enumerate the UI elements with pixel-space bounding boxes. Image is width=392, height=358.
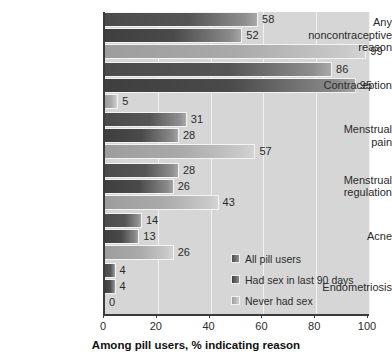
legend-label: Had sex in last 90 days bbox=[245, 274, 354, 286]
bar-value-label: 31 bbox=[187, 112, 203, 127]
bar-chart: 58529986955312857282643141326440 Anynonc… bbox=[0, 0, 392, 358]
category-label-line: Menstrual bbox=[293, 123, 392, 136]
bar[interactable] bbox=[105, 179, 174, 194]
category-label-line: pain bbox=[293, 136, 392, 149]
bar[interactable] bbox=[105, 263, 116, 278]
x-axis-tick-label: 100 bbox=[358, 320, 376, 332]
bar-value-label: 58 bbox=[258, 12, 274, 27]
category-label-line: Menstrual bbox=[293, 174, 392, 187]
x-axis-tick bbox=[209, 314, 210, 318]
category-label-line: Contraception bbox=[293, 79, 392, 92]
bar-row: 86 bbox=[105, 62, 369, 77]
bar-value-label: 4 bbox=[116, 263, 126, 278]
x-axis-tick-label: 40 bbox=[202, 320, 214, 332]
chart-legend: All pill usersHad sex in last 90 daysNev… bbox=[231, 250, 354, 313]
legend-item[interactable]: Had sex in last 90 days bbox=[231, 271, 354, 288]
bar-value-label: 86 bbox=[332, 62, 348, 77]
bar-value-label: 28 bbox=[179, 163, 195, 178]
bar[interactable] bbox=[105, 229, 139, 244]
x-axis-tick-label: 80 bbox=[308, 320, 320, 332]
category-label-line: Any bbox=[293, 16, 392, 29]
bar[interactable] bbox=[105, 62, 332, 77]
bar[interactable] bbox=[105, 112, 187, 127]
legend-swatch-icon bbox=[231, 254, 240, 263]
category-label-line: Acne bbox=[293, 230, 392, 243]
x-axis-tick-label: 60 bbox=[255, 320, 267, 332]
x-axis-tick bbox=[261, 314, 262, 318]
bar-row: 5 bbox=[105, 94, 369, 109]
category-label-line: noncontraceptive bbox=[293, 29, 392, 42]
bar-value-label: 14 bbox=[142, 213, 158, 228]
category-label-line: regulation bbox=[293, 186, 392, 199]
bar-value-label: 52 bbox=[242, 28, 258, 43]
bar[interactable] bbox=[105, 144, 255, 159]
legend-label: All pill users bbox=[245, 253, 301, 265]
bar[interactable] bbox=[105, 279, 116, 294]
category-label: Menstrualregulation bbox=[293, 174, 392, 199]
bar[interactable] bbox=[105, 94, 118, 109]
legend-label: Never had sex bbox=[245, 295, 313, 307]
x-axis-tick-label: 20 bbox=[150, 320, 162, 332]
bar[interactable] bbox=[105, 128, 179, 143]
bar-value-label: 28 bbox=[179, 128, 195, 143]
bar-row: 14 bbox=[105, 213, 369, 228]
bar-value-label: 26 bbox=[174, 179, 190, 194]
bar-value-label: 5 bbox=[118, 94, 128, 109]
bar-value-label: 0 bbox=[105, 295, 115, 310]
category-label-line: reason bbox=[293, 41, 392, 54]
x-axis-tick-label: 0 bbox=[100, 320, 106, 332]
legend-swatch-icon bbox=[231, 275, 240, 284]
x-axis-tick bbox=[367, 314, 368, 318]
x-axis-title: Among pill users, % indicating reason bbox=[0, 339, 392, 351]
bar[interactable] bbox=[105, 195, 219, 210]
bar-value-label: 4 bbox=[116, 279, 126, 294]
bar-value-label: 57 bbox=[255, 144, 271, 159]
legend-item[interactable]: Never had sex bbox=[231, 292, 354, 309]
bar[interactable] bbox=[105, 12, 258, 27]
legend-item[interactable]: All pill users bbox=[231, 250, 354, 267]
category-label: Acne bbox=[293, 230, 392, 243]
bar[interactable] bbox=[105, 245, 174, 260]
bar[interactable] bbox=[105, 163, 179, 178]
legend-swatch-icon bbox=[231, 296, 240, 305]
category-label: Anynoncontraceptivereason bbox=[293, 16, 392, 54]
bar[interactable] bbox=[105, 213, 142, 228]
category-label: Menstrualpain bbox=[293, 123, 392, 148]
bar-value-label: 13 bbox=[139, 229, 155, 244]
x-axis-tick bbox=[103, 314, 104, 318]
category-label: Contraception bbox=[293, 79, 392, 92]
bar-value-label: 43 bbox=[219, 195, 235, 210]
bar-value-label: 26 bbox=[174, 245, 190, 260]
x-axis-line bbox=[103, 314, 369, 316]
bar[interactable] bbox=[105, 28, 242, 43]
x-axis-tick bbox=[314, 314, 315, 318]
x-axis-tick bbox=[156, 314, 157, 318]
